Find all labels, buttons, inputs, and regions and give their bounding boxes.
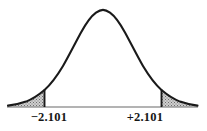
normal-curve-path bbox=[8, 10, 198, 106]
lower-critical-value-label: −2.101 bbox=[31, 111, 67, 124]
upper-critical-value-label: +2.101 bbox=[127, 111, 163, 124]
normal-distribution-figure: −2.101 +2.101 bbox=[0, 0, 207, 131]
